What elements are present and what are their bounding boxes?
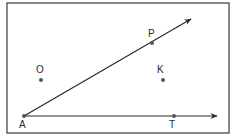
point-O bbox=[39, 78, 43, 82]
point-K bbox=[161, 78, 165, 82]
label-P: P bbox=[148, 28, 155, 39]
point-A bbox=[22, 114, 26, 118]
point-T bbox=[172, 114, 176, 118]
label-A: A bbox=[19, 119, 26, 130]
label-O: O bbox=[36, 64, 44, 75]
ray-AP bbox=[24, 19, 191, 116]
point-P bbox=[150, 41, 154, 45]
label-T: T bbox=[169, 119, 175, 130]
angle-diagram: A P O K T bbox=[0, 0, 231, 139]
label-K: K bbox=[157, 64, 164, 75]
